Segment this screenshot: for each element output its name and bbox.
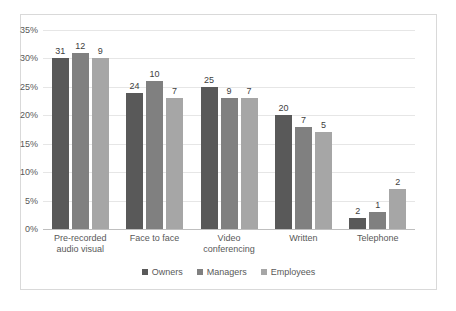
legend-label: Owners (152, 267, 183, 277)
y-axis-tick-label: 30% (20, 53, 38, 63)
bar[interactable] (92, 58, 109, 229)
x-axis-tick-label: Written (266, 233, 340, 255)
bar-group: 31129 (43, 30, 117, 229)
bar[interactable] (241, 98, 258, 229)
bar-data-label: 7 (172, 87, 177, 96)
bar-group-bars: 31129 (43, 30, 117, 229)
bar-group-bars: 24107 (117, 30, 191, 229)
bar-data-label: 9 (98, 47, 103, 56)
x-axis-category-labels: Pre-recordedaudio visualFace to faceVide… (43, 233, 415, 255)
x-axis-tick-label-line: Telephone (341, 233, 415, 244)
legend-swatch-icon (142, 269, 148, 275)
bar-data-label: 2 (355, 207, 360, 216)
plot-area: 0%5%10%15%20%25%30%35% 31129241072597207… (43, 30, 415, 229)
legend-label: Employees (271, 267, 316, 277)
bar[interactable] (295, 127, 312, 229)
bar-data-label: 7 (301, 116, 306, 125)
bar-data-label: 9 (227, 87, 232, 96)
bar-group: 2597 (192, 30, 266, 229)
bar[interactable] (126, 93, 143, 229)
chart-legend: OwnersManagersEmployees (21, 267, 436, 277)
bar-group: 2075 (266, 30, 340, 229)
y-axis-tick-label: 0% (25, 224, 38, 234)
bar-data-label: 2 (395, 178, 400, 187)
bar[interactable] (52, 58, 69, 229)
bar-data-label: 31 (55, 47, 65, 56)
bar-data-label: 25 (204, 76, 214, 85)
bar-wrapper: 5 (315, 30, 332, 229)
bar-data-label: 7 (247, 87, 252, 96)
bar-wrapper: 7 (241, 30, 258, 229)
bar[interactable] (315, 132, 332, 229)
y-axis-tick-label: 20% (20, 110, 38, 120)
x-axis-tick-label: Videoconferencing (192, 233, 266, 255)
legend-swatch-icon (261, 269, 267, 275)
bar[interactable] (275, 115, 292, 229)
x-axis-tick-label-line: Written (266, 233, 340, 244)
legend-item-employees[interactable]: Employees (261, 267, 316, 277)
bar[interactable] (221, 98, 238, 229)
y-axis-tick-label: 25% (20, 82, 38, 92)
bar-data-label: 12 (75, 42, 85, 51)
legend-item-owners[interactable]: Owners (142, 267, 183, 277)
bar-wrapper: 9 (92, 30, 109, 229)
bar-wrapper: 20 (275, 30, 292, 229)
bar-wrapper: 25 (201, 30, 218, 229)
y-axis-tick-label: 15% (20, 139, 38, 149)
bar-wrapper: 7 (295, 30, 312, 229)
bar[interactable] (146, 81, 163, 229)
y-axis-tick-label: 35% (20, 25, 38, 35)
x-axis-line: 0% (43, 229, 415, 230)
legend-label: Managers (207, 267, 247, 277)
bar-wrapper: 9 (221, 30, 238, 229)
bar-wrapper: 10 (146, 30, 163, 229)
x-axis-tick-label-line: conferencing (192, 244, 266, 255)
y-axis-tick-label: 10% (20, 167, 38, 177)
bar[interactable] (369, 212, 386, 229)
bar-wrapper: 7 (166, 30, 183, 229)
legend-swatch-icon (197, 269, 203, 275)
bar-wrapper: 2 (349, 30, 366, 229)
bar-group-bars: 2075 (266, 30, 340, 229)
bar[interactable] (166, 98, 183, 229)
bar-data-label: 10 (150, 70, 160, 79)
legend-item-managers[interactable]: Managers (197, 267, 247, 277)
x-axis-tick-label: Telephone (341, 233, 415, 255)
bar-group: 24107 (117, 30, 191, 229)
bar-wrapper: 1 (369, 30, 386, 229)
bar-data-label: 24 (130, 82, 140, 91)
x-axis-tick-label: Pre-recordedaudio visual (43, 233, 117, 255)
bar-wrapper: 31 (52, 30, 69, 229)
bar-group-bars: 2597 (192, 30, 266, 229)
bar-group: 212 (341, 30, 415, 229)
bar[interactable] (349, 218, 366, 229)
x-axis-tick-label-line: audio visual (43, 244, 117, 255)
bar-wrapper: 2 (389, 30, 406, 229)
x-axis-tick-label: Face to face (117, 233, 191, 255)
bar[interactable] (72, 53, 89, 229)
x-axis-tick-label-line: Face to face (117, 233, 191, 244)
bar-data-label: 20 (278, 104, 288, 113)
bar-wrapper: 12 (72, 30, 89, 229)
bar-group-bars: 212 (341, 30, 415, 229)
bar-data-label: 5 (321, 121, 326, 130)
bar-groups: 311292410725972075212 (43, 30, 415, 229)
y-axis-tick-label: 5% (25, 196, 38, 206)
bar[interactable] (201, 87, 218, 229)
bar[interactable] (389, 189, 406, 229)
x-axis-tick-label-line: Pre-recorded (43, 233, 117, 244)
bar-wrapper: 24 (126, 30, 143, 229)
bar-data-label: 1 (375, 201, 380, 210)
x-axis-tick-label-line: Video (192, 233, 266, 244)
chart-container: 0%5%10%15%20%25%30%35% 31129241072597207… (20, 14, 437, 290)
